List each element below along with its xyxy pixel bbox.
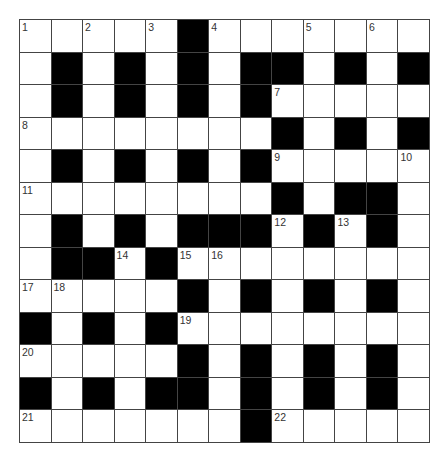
answer-cell[interactable]	[115, 378, 147, 411]
answer-cell[interactable]	[209, 53, 241, 86]
answer-cell[interactable]: 13	[335, 215, 367, 248]
answer-cell[interactable]	[335, 20, 367, 53]
answer-cell[interactable]	[83, 150, 115, 183]
answer-cell[interactable]	[241, 183, 273, 216]
answer-cell[interactable]	[83, 85, 115, 118]
answer-cell[interactable]	[146, 280, 178, 313]
answer-cell[interactable]: 8	[20, 118, 52, 151]
answer-cell[interactable]	[146, 215, 178, 248]
answer-cell[interactable]	[398, 345, 430, 378]
answer-cell[interactable]	[398, 280, 430, 313]
answer-cell[interactable]	[146, 118, 178, 151]
answer-cell[interactable]: 19	[178, 313, 210, 346]
answer-cell[interactable]	[178, 118, 210, 151]
answer-cell[interactable]	[272, 345, 304, 378]
answer-cell[interactable]	[83, 410, 115, 443]
answer-cell[interactable]	[83, 215, 115, 248]
answer-cell[interactable]	[146, 85, 178, 118]
answer-cell[interactable]	[304, 248, 336, 281]
answer-cell[interactable]: 14	[115, 248, 147, 281]
answer-cell[interactable]: 5	[304, 20, 336, 53]
answer-cell[interactable]	[335, 313, 367, 346]
answer-cell[interactable]	[52, 410, 84, 443]
answer-cell[interactable]	[178, 410, 210, 443]
answer-cell[interactable]	[146, 53, 178, 86]
answer-cell[interactable]: 18	[52, 280, 84, 313]
answer-cell[interactable]: 21	[20, 410, 52, 443]
answer-cell[interactable]	[209, 118, 241, 151]
answer-cell[interactable]	[367, 150, 399, 183]
answer-cell[interactable]	[241, 118, 273, 151]
answer-cell[interactable]	[398, 410, 430, 443]
answer-cell[interactable]	[398, 313, 430, 346]
answer-cell[interactable]	[115, 410, 147, 443]
answer-cell[interactable]	[209, 85, 241, 118]
answer-cell[interactable]	[178, 183, 210, 216]
answer-cell[interactable]	[241, 313, 273, 346]
answer-cell[interactable]	[398, 183, 430, 216]
answer-cell[interactable]	[146, 345, 178, 378]
answer-cell[interactable]	[304, 313, 336, 346]
answer-cell[interactable]	[20, 248, 52, 281]
answer-cell[interactable]	[304, 118, 336, 151]
answer-cell[interactable]	[83, 53, 115, 86]
answer-cell[interactable]: 16	[209, 248, 241, 281]
answer-cell[interactable]	[52, 313, 84, 346]
answer-cell[interactable]	[209, 183, 241, 216]
answer-cell[interactable]	[83, 345, 115, 378]
answer-cell[interactable]	[209, 378, 241, 411]
answer-cell[interactable]	[20, 53, 52, 86]
answer-cell[interactable]	[115, 183, 147, 216]
answer-cell[interactable]	[304, 150, 336, 183]
answer-cell[interactable]: 3	[146, 20, 178, 53]
answer-cell[interactable]	[367, 85, 399, 118]
answer-cell[interactable]: 11	[20, 183, 52, 216]
answer-cell[interactable]	[52, 20, 84, 53]
answer-cell[interactable]	[272, 378, 304, 411]
answer-cell[interactable]	[367, 248, 399, 281]
answer-cell[interactable]	[304, 53, 336, 86]
answer-cell[interactable]	[52, 378, 84, 411]
answer-cell[interactable]: 4	[209, 20, 241, 53]
answer-cell[interactable]	[335, 345, 367, 378]
answer-cell[interactable]	[335, 410, 367, 443]
answer-cell[interactable]	[367, 410, 399, 443]
answer-cell[interactable]	[335, 280, 367, 313]
answer-cell[interactable]	[115, 280, 147, 313]
answer-cell[interactable]	[272, 248, 304, 281]
answer-cell[interactable]	[272, 280, 304, 313]
answer-cell[interactable]: 1	[20, 20, 52, 53]
answer-cell[interactable]: 17	[20, 280, 52, 313]
answer-cell[interactable]	[367, 53, 399, 86]
answer-cell[interactable]	[52, 118, 84, 151]
answer-cell[interactable]	[335, 378, 367, 411]
answer-cell[interactable]: 9	[272, 150, 304, 183]
answer-cell[interactable]: 6	[367, 20, 399, 53]
answer-cell[interactable]	[20, 85, 52, 118]
answer-cell[interactable]	[209, 345, 241, 378]
answer-cell[interactable]	[241, 20, 273, 53]
answer-cell[interactable]: 2	[83, 20, 115, 53]
answer-cell[interactable]	[241, 248, 273, 281]
answer-cell[interactable]	[83, 118, 115, 151]
answer-cell[interactable]	[304, 85, 336, 118]
answer-cell[interactable]	[83, 280, 115, 313]
answer-cell[interactable]	[146, 410, 178, 443]
answer-cell[interactable]	[20, 150, 52, 183]
answer-cell[interactable]	[398, 20, 430, 53]
answer-cell[interactable]	[20, 215, 52, 248]
answer-cell[interactable]	[335, 150, 367, 183]
answer-cell[interactable]	[115, 118, 147, 151]
answer-cell[interactable]	[398, 248, 430, 281]
answer-cell[interactable]	[335, 248, 367, 281]
answer-cell[interactable]	[398, 215, 430, 248]
answer-cell[interactable]	[304, 183, 336, 216]
answer-cell[interactable]	[115, 345, 147, 378]
answer-cell[interactable]	[115, 20, 147, 53]
answer-cell[interactable]	[209, 410, 241, 443]
answer-cell[interactable]: 10	[398, 150, 430, 183]
answer-cell[interactable]	[398, 85, 430, 118]
answer-cell[interactable]	[209, 313, 241, 346]
answer-cell[interactable]	[83, 183, 115, 216]
answer-cell[interactable]	[272, 313, 304, 346]
